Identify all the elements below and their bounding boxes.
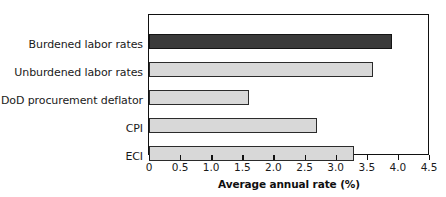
x-tick-1-0 (211, 155, 212, 160)
x-tick-label-1-5: 1.5 (234, 161, 251, 173)
category-label-eci: ECI (0, 151, 143, 162)
bar-cpi (149, 118, 317, 133)
x-tick-2-0 (273, 155, 274, 160)
x-tick-4-0 (398, 155, 399, 160)
category-axis-labels: Burdened labor rates Unburdened labor ra… (0, 14, 143, 155)
x-tick-0-5 (180, 155, 181, 160)
x-axis-title: Average annual rate (%) (149, 178, 429, 190)
x-tick-label-0: 0 (146, 161, 153, 173)
bar-dod-procurement-deflator (149, 90, 249, 105)
x-tick-label-3-0: 3.0 (327, 161, 344, 173)
bar-chart: Burdened labor rates Unburdened labor ra… (0, 0, 446, 197)
x-tick-label-2-5: 2.5 (296, 161, 313, 173)
x-tick-1-5 (242, 155, 243, 160)
x-tick-label-3-5: 3.5 (358, 161, 375, 173)
x-tick-label-4-0: 4.0 (390, 161, 407, 173)
x-tick-label-0-5: 0.5 (172, 161, 189, 173)
x-tick-4-5 (429, 155, 430, 160)
bar-unburdened-labor-rates (149, 62, 373, 77)
bars-layer (149, 14, 429, 155)
category-label-dod-procurement-deflator: DoD procurement deflator (0, 95, 143, 106)
x-tick-2-5 (305, 155, 306, 160)
category-label-burdened-labor-rates: Burdened labor rates (0, 39, 143, 50)
x-tick-label-1-0: 1.0 (203, 161, 220, 173)
x-axis-tick-labels: 0 0.5 1.0 1.5 2.0 2.5 3.0 3.5 4.0 4.5 (149, 161, 429, 175)
x-tick-3-0 (336, 155, 337, 160)
bar-burdened-labor-rates (149, 34, 392, 49)
x-tick-3-5 (367, 155, 368, 160)
category-label-cpi: CPI (0, 123, 143, 134)
category-label-unburdened-labor-rates: Unburdened labor rates (0, 67, 143, 78)
x-tick-0 (149, 155, 150, 160)
x-tick-label-4-5: 4.5 (421, 161, 438, 173)
x-tick-label-2-0: 2.0 (265, 161, 282, 173)
